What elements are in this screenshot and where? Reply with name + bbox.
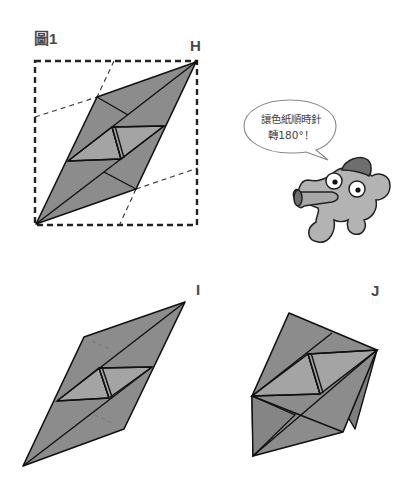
step-label-j: J	[371, 283, 379, 298]
step-j-diagram	[252, 313, 377, 456]
step-label-i: I	[196, 282, 200, 297]
diagram-canvas	[0, 0, 416, 498]
figure-title: 圖1	[34, 31, 57, 46]
mascot-creature	[293, 158, 390, 243]
corner-label-h: H	[190, 38, 201, 53]
mascot-trumpet-opening-icon	[294, 190, 302, 206]
origami-instruction-page: 圖1 H I J 讓色紙順時針 轉180°！	[0, 0, 416, 498]
speech-bubble-line-1: 讓色紙順時針	[245, 114, 337, 125]
speech-bubble-line-2: 轉180°！	[245, 130, 337, 141]
step-i-diagram	[23, 302, 185, 466]
figure-1-diagram	[35, 60, 198, 226]
corner-h-dot	[194, 60, 198, 64]
